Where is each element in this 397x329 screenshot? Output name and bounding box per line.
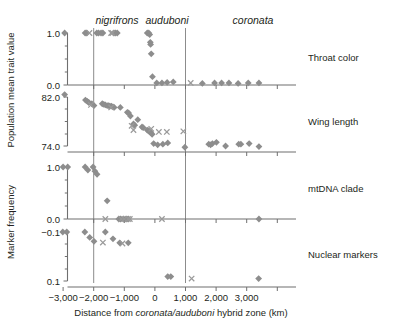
panel3-ytick-label-bottom: 0.0 xyxy=(47,214,60,225)
x-axis-tick-label: −1,000 xyxy=(110,292,139,303)
data-point-diamond xyxy=(110,235,117,242)
x-axis-tick-label: 2,000 xyxy=(204,292,228,303)
panel2-x-ticks xyxy=(94,152,278,156)
panel2-ytick-label-top: 82.0 xyxy=(42,92,61,103)
x-axis-tick-label: −2,000 xyxy=(79,292,108,303)
panel4-x-ticks xyxy=(63,287,277,291)
data-point-diamond xyxy=(125,239,132,246)
x-axis-tick-label: −3,000 xyxy=(48,292,77,303)
data-point-diamond xyxy=(81,229,88,236)
taxon-label-coronata: coronata xyxy=(233,14,274,26)
data-point-diamond xyxy=(181,144,188,151)
panel-wing-length: 82.0 74.0 Wing length xyxy=(42,91,359,156)
panel4-ytick-label-top: −0.1 xyxy=(41,227,60,238)
scatter-panels-figure: nigrifrons auduboni coronata Population … xyxy=(0,0,397,329)
panel4-data-points xyxy=(59,229,262,282)
taxon-label-auduboni: auduboni xyxy=(145,14,189,26)
panel3-data-points xyxy=(60,164,263,223)
y-axis-title-upper: Population mean trait value xyxy=(5,32,16,147)
data-point-diamond xyxy=(117,104,124,111)
panel-label-nuclear-markers: Nuclear markers xyxy=(308,249,378,260)
panel1-ytick-label-top: 1.0 xyxy=(47,28,60,39)
x-axis-tick-label: 0 xyxy=(152,292,157,303)
taxon-label-nigrifrons: nigrifrons xyxy=(95,14,139,26)
panel1-ytick-label-bottom: 0.0 xyxy=(47,80,60,91)
data-point-diamond xyxy=(235,80,242,87)
x-axis-title-post: hybrid zone (km) xyxy=(214,307,287,318)
data-point-diamond xyxy=(134,116,141,123)
data-point-diamond xyxy=(159,141,166,148)
panel-mtdna-clade: 1.0 0.0 mtDNA clade xyxy=(47,162,364,225)
x-axis-tick-label: 3,000 xyxy=(235,292,259,303)
data-point-diamond xyxy=(63,229,70,236)
data-point-cross xyxy=(164,129,169,134)
x-axis-title: Distance from coronata/auduboni hybrid z… xyxy=(74,307,287,318)
data-point-diamond xyxy=(170,78,177,85)
panel-nuclear-markers: −0.1 0.1 Nuclear markers xyxy=(41,227,378,292)
data-point-diamond xyxy=(164,140,171,147)
data-point-diamond xyxy=(222,143,229,150)
panel2-ytick-label-bottom: 74.0 xyxy=(42,141,61,152)
panel2-data-points xyxy=(61,91,262,150)
data-point-cross xyxy=(100,240,105,245)
x-axis-title-pre: Distance from xyxy=(74,307,135,318)
taxon-labels: nigrifrons auduboni coronata xyxy=(95,14,273,26)
panel-label-throat-color: Throat color xyxy=(308,52,359,63)
data-point-diamond xyxy=(199,80,206,87)
data-point-diamond xyxy=(255,275,262,282)
panel-label-wing-length: Wing length xyxy=(308,116,358,127)
data-point-diamond xyxy=(86,234,93,241)
panel-label-mtdna-clade: mtDNA clade xyxy=(308,183,363,194)
panel1-y-ticks xyxy=(64,33,68,85)
y-axis-title-lower: Marker frequency xyxy=(5,185,16,259)
x-axis-title-taxa: coronata/auduboni xyxy=(136,307,216,318)
panel1-x-ticks xyxy=(94,85,278,89)
reference-lines xyxy=(94,28,186,283)
data-point-diamond xyxy=(148,50,155,57)
data-point-diamond xyxy=(246,140,253,147)
panel4-y-ticks xyxy=(64,232,68,281)
data-point-diamond xyxy=(102,229,109,236)
data-point-cross xyxy=(156,129,161,134)
panel2-y-ticks xyxy=(64,97,68,146)
data-point-diamond xyxy=(149,73,156,80)
x-axis-tick-label: 1,000 xyxy=(174,292,198,303)
data-point-diamond xyxy=(104,197,111,204)
panel4-ytick-label-bottom: 0.1 xyxy=(47,276,60,287)
figure-container: nigrifrons auduboni coronata Population … xyxy=(0,0,397,329)
data-point-diamond xyxy=(256,216,263,223)
data-point-cross xyxy=(189,276,194,281)
panel3-ytick-label-top: 1.0 xyxy=(47,162,60,173)
data-point-diamond xyxy=(91,238,98,245)
data-point-diamond xyxy=(64,164,71,171)
x-axis-tick-labels: −3,000−2,000−1,00001,0002,0003,000 xyxy=(48,292,258,303)
data-point-diamond xyxy=(256,143,263,150)
panel3-y-ticks xyxy=(64,167,68,219)
panel1-data-points xyxy=(61,30,262,87)
